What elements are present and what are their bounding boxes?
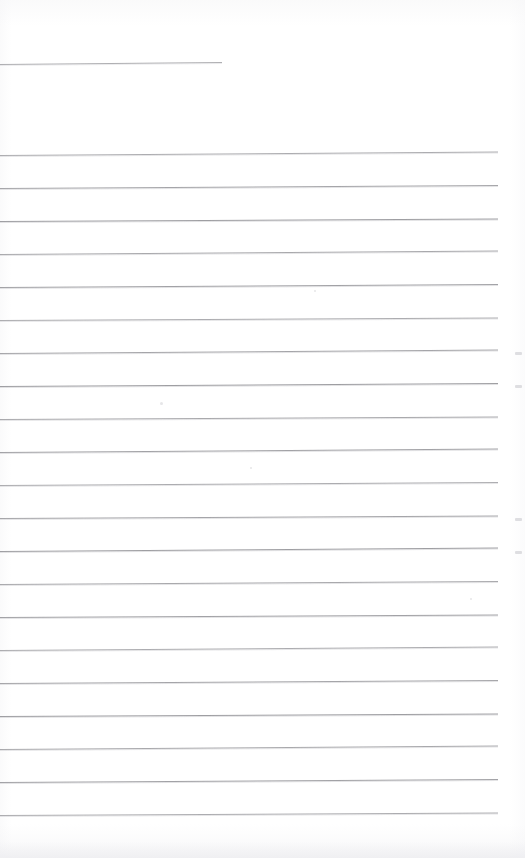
scan-edge-mark (515, 352, 522, 355)
ruled-line (0, 713, 498, 717)
ruled-line (0, 812, 498, 816)
paper-tone-overlay (0, 0, 525, 858)
scan-edge-mark (515, 385, 522, 388)
ruled-line (0, 218, 498, 222)
scan-edge-mark (515, 518, 522, 521)
bottom-scan-edge (0, 842, 525, 858)
header-rule (0, 62, 222, 65)
ruled-line (0, 416, 498, 420)
ruled-line (0, 646, 498, 651)
scan-edge-mark (515, 551, 522, 554)
ruled-line (0, 185, 498, 189)
ruled-line (0, 448, 498, 453)
paper-fleck (160, 402, 163, 405)
paper-fleck (314, 290, 316, 292)
ruled-line (0, 317, 498, 321)
ruled-line (0, 250, 498, 255)
ruled-line (0, 383, 498, 387)
ruled-line (0, 779, 498, 783)
ruled-line (0, 745, 498, 750)
paper-fleck (470, 598, 472, 600)
ruled-line (0, 349, 498, 354)
paper-fleck (250, 467, 252, 469)
ruled-line (0, 581, 498, 585)
ruled-line (0, 547, 498, 552)
scanned-page (0, 0, 525, 858)
ruled-line (0, 151, 498, 156)
ruled-line (0, 482, 498, 486)
ruled-line (0, 515, 498, 519)
ruled-line (0, 614, 498, 618)
ruled-line (0, 680, 498, 684)
ruled-line (0, 284, 498, 288)
